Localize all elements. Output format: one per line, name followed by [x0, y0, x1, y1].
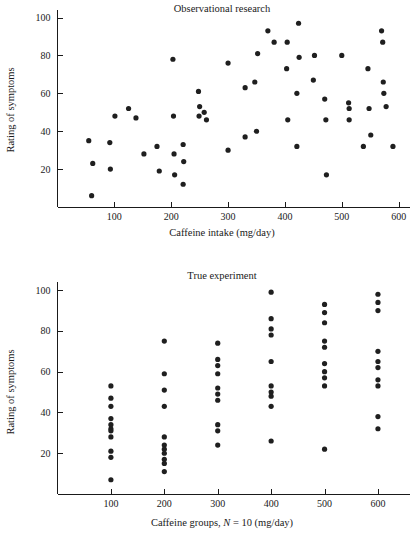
y-tick-label: 80: [41, 325, 51, 336]
x-tick-label: 500: [317, 498, 332, 509]
y-tick-label: 20: [41, 164, 51, 175]
data-point: [108, 167, 113, 172]
data-point: [181, 182, 186, 187]
x-tick-label: 300: [221, 211, 236, 222]
y-tick-label: 40: [41, 407, 51, 418]
y-tick-label: 20: [41, 448, 51, 459]
x-axis-label-true-experiment: Caffeine groups, N = 10 (mg/day): [151, 517, 294, 529]
data-point: [215, 442, 220, 447]
y-tick-label: 60: [41, 366, 51, 377]
data-point: [89, 193, 94, 198]
experiment-svg: True experiment Rating of symptoms 20406…: [0, 262, 416, 535]
x-tick-label: 100: [107, 211, 122, 222]
data-point: [269, 438, 274, 443]
data-point: [141, 151, 146, 156]
chart-true-experiment: True experiment Rating of symptoms 20406…: [0, 262, 416, 535]
data-point: [272, 40, 277, 45]
data-point: [269, 359, 274, 364]
data-point: [107, 140, 112, 145]
data-point: [126, 106, 131, 111]
data-point: [323, 117, 328, 122]
data-point: [108, 477, 113, 482]
data-point: [346, 100, 351, 105]
data-point: [365, 66, 370, 71]
data-point: [108, 449, 113, 454]
data-point: [215, 341, 220, 346]
data-point: [171, 151, 176, 156]
x-tick-label: 500: [334, 211, 349, 222]
data-point: [269, 404, 274, 409]
data-point: [202, 110, 207, 115]
data-point: [215, 357, 220, 362]
observational-data-points: [86, 21, 395, 199]
data-point: [285, 40, 290, 45]
data-point: [243, 134, 248, 139]
data-point: [255, 51, 260, 56]
data-point: [215, 371, 220, 376]
data-point: [375, 414, 380, 419]
data-point: [269, 394, 274, 399]
x-tick-label: 100: [103, 498, 118, 509]
data-point: [380, 40, 385, 45]
data-point: [197, 104, 202, 109]
observational-svg: Observational research Rating of symptom…: [0, 0, 416, 248]
data-point: [269, 290, 274, 295]
data-point: [162, 387, 167, 392]
data-point: [322, 383, 327, 388]
data-point: [390, 144, 395, 149]
y-tick-label: 60: [41, 88, 51, 99]
y-tick-label: 100: [36, 285, 51, 296]
data-point: [375, 377, 380, 382]
data-point: [361, 144, 366, 149]
data-point: [162, 434, 167, 439]
data-point: [366, 106, 371, 111]
data-point: [154, 144, 159, 149]
data-point: [196, 89, 201, 94]
data-point: [225, 148, 230, 153]
data-point: [181, 159, 186, 164]
data-point: [285, 117, 290, 122]
data-point: [171, 113, 176, 118]
data-point: [375, 349, 380, 354]
y-tick-label: 80: [41, 50, 51, 61]
data-point: [225, 60, 230, 65]
data-point: [375, 292, 380, 297]
chart-title-true-experiment: True experiment: [187, 270, 256, 281]
data-point: [254, 129, 259, 134]
data-point: [215, 363, 220, 368]
data-point: [322, 96, 327, 101]
data-point: [297, 55, 302, 60]
chart-title-observational: Observational research: [174, 3, 271, 14]
data-point: [108, 455, 113, 460]
x-tick-label: 300: [210, 498, 225, 509]
data-point: [157, 168, 162, 173]
data-point: [381, 79, 386, 84]
data-point: [375, 359, 380, 364]
y-axis-label-observational: Rating of symptoms: [5, 67, 16, 152]
data-point: [375, 383, 380, 388]
data-point: [181, 142, 186, 147]
data-point: [375, 308, 380, 313]
data-point: [162, 469, 167, 474]
data-point: [312, 53, 317, 58]
x-axis-observational: 100200300400500600: [58, 202, 411, 222]
data-point: [108, 396, 113, 401]
data-point: [108, 383, 113, 388]
data-point: [196, 113, 201, 118]
data-point: [347, 106, 352, 111]
data-point: [322, 447, 327, 452]
data-point: [269, 332, 274, 337]
data-point: [296, 21, 301, 26]
data-point: [339, 53, 344, 58]
data-point: [294, 144, 299, 149]
data-point: [322, 375, 327, 380]
true-experiment-data-points: [108, 290, 380, 483]
data-point: [322, 369, 327, 374]
data-point: [375, 426, 380, 431]
data-point: [269, 383, 274, 388]
chart-observational-research: Observational research Rating of symptom…: [0, 0, 416, 248]
data-point: [381, 91, 386, 96]
x-tick-label: 200: [164, 211, 179, 222]
data-point: [269, 326, 274, 331]
data-point: [108, 404, 113, 409]
